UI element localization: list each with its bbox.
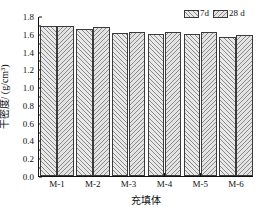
chart-legend: 7d28 d [184,9,245,18]
y-tick-label: 1.0 [23,84,39,93]
bar-m-1-28d [57,26,74,176]
y-tick-label: 1.8 [23,13,39,22]
y-tick-mark [39,17,42,18]
bar-m-4-7d [148,34,165,176]
bar-m-6-7d [219,37,236,176]
y-tick-label: 0.0 [23,173,39,182]
bar-m-6-28d [236,35,253,176]
legend-entry-7d: 7d [184,9,209,18]
x-tick-label-m-5: M-5 [193,180,209,189]
bar-m-3-28d [129,32,146,176]
plot-area: 0.00.20.40.60.81.01.21.41.61.8 M-1M-2M-3… [38,17,253,177]
legend-label: 7d [200,9,209,18]
bar-m-5-28d [201,32,218,176]
y-tick-label: 0.4 [23,137,39,146]
x-tick-label-m-1: M-1 [49,180,65,189]
x-tick-label-m-3: M-3 [121,180,137,189]
y-tick-label: 0.2 [23,155,39,164]
bar-m-5-7d [184,34,201,176]
x-axis-title: 充填体 [38,196,253,206]
legend-swatch-7d [184,10,199,18]
y-tick-mark [39,177,42,178]
bar-m-4-28d [165,32,182,176]
dry-density-bar-chart: 干密度/ (g/cm³) 0.00.20.40.60.81.01.21.41.6… [0,0,267,214]
bar-m-1-7d [40,26,57,176]
y-axis-title: 干密度/ (g/cm³) [0,17,12,177]
legend-swatch-28d [213,10,228,18]
y-tick-label: 0.8 [23,101,39,110]
legend-label: 28 d [229,9,245,18]
bar-m-3-7d [112,33,129,176]
x-tick-label-m-6: M-6 [228,180,244,189]
y-tick-label: 1.4 [23,48,39,57]
bar-m-2-7d [76,29,93,176]
bar-m-2-28d [93,27,110,176]
x-tick-label-m-2: M-2 [85,180,101,189]
legend-entry-28d: 28 d [213,9,245,18]
y-tick-label: 1.2 [23,66,39,75]
y-tick-label: 1.6 [23,30,39,39]
y-tick-label: 0.6 [23,119,39,128]
x-tick-label-m-4: M-4 [157,180,173,189]
